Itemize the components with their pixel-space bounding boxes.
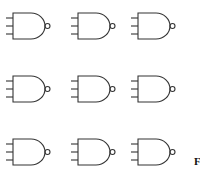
nand-gate-r3c2 xyxy=(71,139,115,165)
nand-gate-r1c3 xyxy=(131,13,175,39)
nand-gate-r2c3 xyxy=(131,76,175,102)
nand-gate-r3c3 xyxy=(131,139,175,165)
nand-gate-grid xyxy=(0,0,200,178)
nand-gate-r3c1 xyxy=(6,139,50,165)
nand-gate-r2c2 xyxy=(71,76,115,102)
nand-gate-r1c2 xyxy=(71,13,115,39)
nand-gate-r1c1 xyxy=(6,13,50,39)
nand-gate-r2c1 xyxy=(6,76,50,102)
figure-caption: F xyxy=(194,155,200,167)
